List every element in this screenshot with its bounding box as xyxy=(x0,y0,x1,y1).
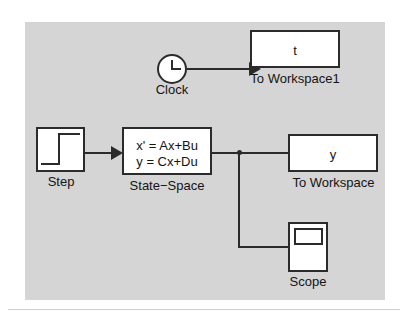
wire-branch-vertical xyxy=(238,152,240,248)
state-space-block-label: State−Space xyxy=(117,178,217,193)
step-block-label: Step xyxy=(31,174,91,189)
to-workspace-block[interactable]: y xyxy=(288,134,378,172)
scope-screen-icon xyxy=(294,228,323,245)
diagram-page: Clock t To Workspace1 Step x' = Ax+Bu y … xyxy=(0,0,408,315)
wire-state-space-to-to-workspace xyxy=(212,152,292,154)
step-waveform-icon-low-segment xyxy=(41,163,59,165)
state-space-equation-line1: x' = Ax+Bu xyxy=(124,138,210,153)
to-workspace-label: To Workspace xyxy=(281,175,386,190)
page-separator-rule xyxy=(8,309,400,310)
to-workspace1-label: To Workspace1 xyxy=(240,71,350,86)
wire-clock-to-workspace1 xyxy=(187,68,252,70)
clock-icon-minute-hand xyxy=(171,68,181,70)
state-space-equation-line2: y = Cx+Du xyxy=(124,154,210,169)
to-workspace1-variable: t xyxy=(252,43,338,58)
step-waveform-icon-high-segment xyxy=(58,133,80,135)
to-workspace1-block[interactable]: t xyxy=(250,30,340,68)
clock-block-label: Clock xyxy=(132,82,212,97)
wire-branch-to-scope xyxy=(238,246,292,248)
step-waveform-icon-rising-edge xyxy=(58,133,60,165)
state-space-block[interactable]: x' = Ax+Bu y = Cx+Du xyxy=(122,127,212,175)
model-canvas[interactable]: Clock t To Workspace1 Step x' = Ax+Bu y … xyxy=(25,22,385,300)
to-workspace-variable: y xyxy=(290,147,376,162)
scope-block-label: Scope xyxy=(278,274,338,289)
